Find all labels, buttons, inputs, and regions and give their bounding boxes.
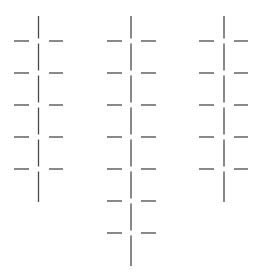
column-left (14, 16, 63, 202)
ladder-diagram (0, 0, 261, 277)
column-right (199, 16, 248, 202)
column-middle (107, 16, 156, 266)
